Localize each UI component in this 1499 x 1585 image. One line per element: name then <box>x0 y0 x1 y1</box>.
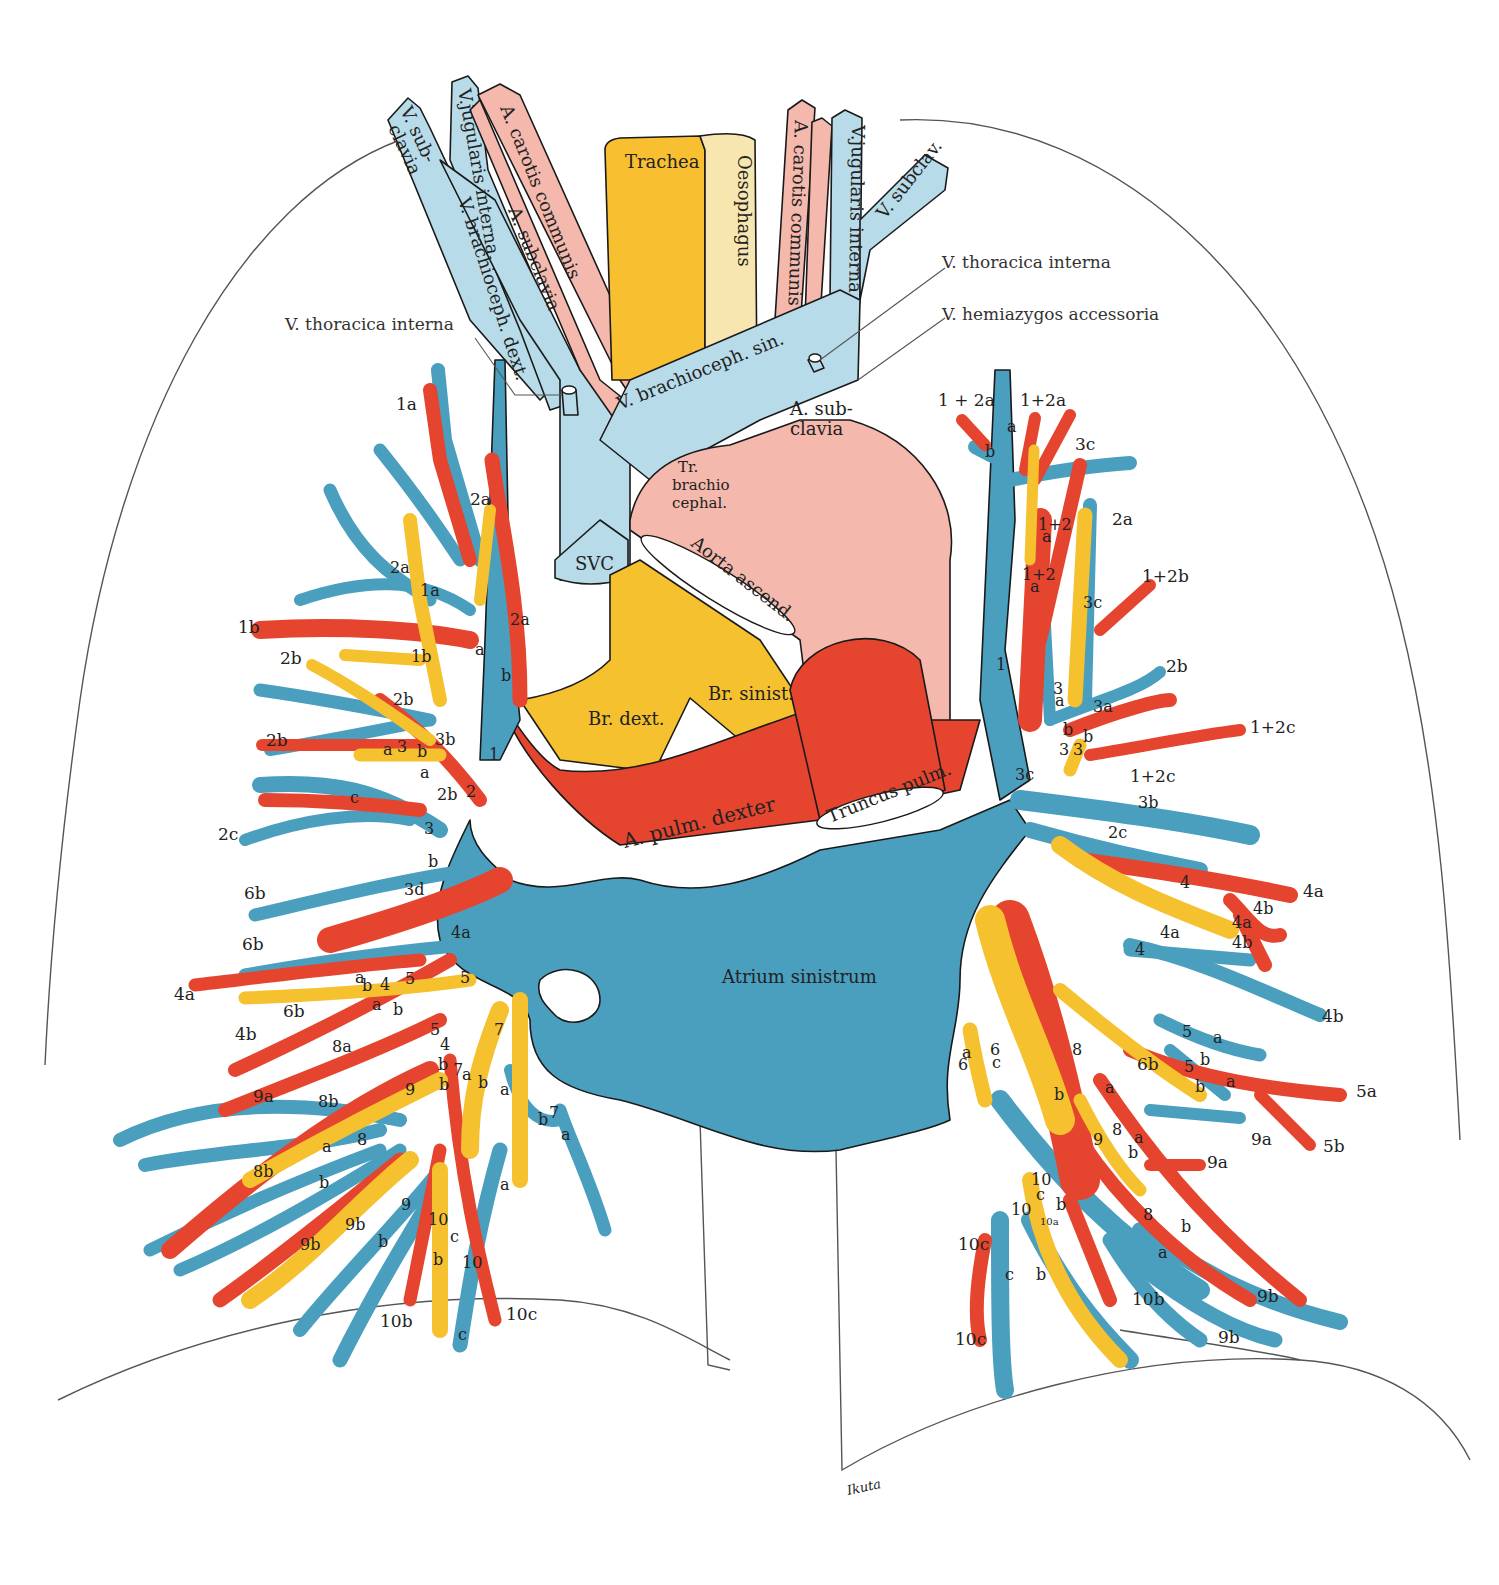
segment-label: a <box>500 1080 510 1099</box>
segment-label: b <box>985 442 995 461</box>
segment-label: 9b <box>1218 1327 1240 1347</box>
segment-label: 3d <box>404 880 424 899</box>
segment-label: 9a <box>1207 1152 1228 1172</box>
segment-label: 1a <box>396 394 417 414</box>
segment-label: 6b <box>283 1001 305 1021</box>
segment-label: b <box>1036 1265 1046 1284</box>
segment-label: 5 <box>1182 1022 1192 1041</box>
segment-label: 8 <box>1072 1040 1082 1059</box>
segment-label: 2a <box>1112 509 1133 529</box>
segment-label: 1b <box>411 647 431 666</box>
svg-text:Br. sinist.: Br. sinist. <box>708 683 794 704</box>
segment-label: b <box>1195 1077 1205 1096</box>
segment-label: 5b <box>1323 1136 1345 1156</box>
segment-label: 3b <box>1138 793 1158 812</box>
segment-label: 1 <box>489 745 499 764</box>
segment-label: a <box>561 1125 571 1144</box>
segment-label: 4 <box>440 1035 450 1054</box>
segment-label: 4b <box>235 1024 257 1044</box>
segment-label: 1 <box>996 655 1006 674</box>
segment-label: 8b <box>253 1162 273 1181</box>
segment-label: a <box>1042 527 1052 546</box>
segment-label: 1b <box>238 617 260 637</box>
segment-label: 4b <box>1322 1006 1344 1026</box>
segment-label: 9 <box>401 1195 411 1214</box>
segment-label: 4b <box>1253 899 1273 918</box>
segment-label: b <box>478 1073 488 1092</box>
segment-label: b <box>1054 1085 1064 1104</box>
segment-label: a <box>1226 1072 1236 1091</box>
segment-label: 6b <box>242 934 264 954</box>
segment-label: 8a <box>332 1037 352 1056</box>
segment-label: 10b <box>380 1311 413 1331</box>
segment-label: b <box>433 1250 443 1269</box>
segment-label: 3c <box>1083 593 1102 612</box>
segment-label: 4a <box>1303 881 1324 901</box>
segment-label: 2b <box>437 785 457 804</box>
segment-label: 8b <box>318 1092 338 1111</box>
svg-text:clavia: clavia <box>790 418 843 439</box>
segment-label: a <box>1030 577 1040 596</box>
svg-text:brachio: brachio <box>672 476 730 494</box>
segment-label: 1a <box>420 581 440 600</box>
segment-label: 4a <box>1160 923 1180 942</box>
segment-label: 9b <box>345 1215 365 1234</box>
segment-label: 9b <box>1257 1286 1279 1306</box>
segment-label: c <box>458 1325 467 1344</box>
segment-label: b <box>378 1232 388 1251</box>
svg-text:cephal.: cephal. <box>672 494 727 512</box>
segment-label: 9a <box>1251 1129 1272 1149</box>
svg-text:Atrium sinistrum: Atrium sinistrum <box>721 966 877 987</box>
svg-text:SVC: SVC <box>575 553 614 574</box>
segment-label: 4b <box>1232 933 1252 952</box>
segment-label: 1+2c <box>1130 766 1175 786</box>
segment-label: b <box>1200 1050 1210 1069</box>
segment-label: a <box>475 640 485 659</box>
segment-label: 9a <box>253 1086 274 1106</box>
segment-label: b <box>538 1110 548 1129</box>
segment-label: a <box>500 1175 510 1194</box>
segment-label: 4a <box>451 923 471 942</box>
segment-label: 6b <box>1137 1054 1159 1074</box>
segment-label: 9 <box>405 1080 415 1099</box>
svg-text:V. thoracica interna: V. thoracica interna <box>284 314 454 334</box>
segment-label: b <box>319 1173 329 1192</box>
segment-label: 5 <box>430 1020 440 1039</box>
segment-label: c <box>1036 1185 1045 1204</box>
segment-label: 3 <box>1059 740 1069 759</box>
segment-label: 1+2c <box>1250 717 1295 737</box>
segment-label: b <box>1056 1195 1066 1214</box>
segment-label: 6b <box>244 883 266 903</box>
segment-label: b <box>439 1075 449 1094</box>
segment-label: 1+2a <box>1020 390 1066 410</box>
segment-label: 2a <box>510 610 530 629</box>
segment-label: a <box>1158 1243 1168 1262</box>
svg-text:Trachea: Trachea <box>625 151 700 172</box>
segment-label: 10 <box>462 1253 482 1272</box>
segment-label: c <box>992 1053 1001 1072</box>
segment-label: c <box>450 1227 459 1246</box>
segment-label: b <box>1181 1217 1191 1236</box>
segment-label: a <box>322 1137 332 1156</box>
segment-label: 2c <box>218 824 238 844</box>
segment-label: 2a <box>470 489 491 509</box>
svg-text:V. hemiazygos accessoria: V. hemiazygos accessoria <box>941 304 1159 324</box>
segment-label: 5 <box>405 969 415 988</box>
segment-label: 10b <box>1132 1289 1165 1309</box>
segment-label: 1+2b <box>1142 566 1189 586</box>
svg-text:V.jugularis interna: V.jugularis interna <box>845 124 869 293</box>
segment-label: 4 <box>380 975 390 994</box>
segment-label: 10c <box>958 1234 989 1254</box>
trachea <box>605 136 705 380</box>
segment-label: 8 <box>1112 1120 1122 1139</box>
segment-label: a <box>1007 417 1017 436</box>
svg-text:Tr.: Tr. <box>678 458 698 476</box>
segment-label: 3c <box>1075 434 1095 454</box>
segment-label: 10c <box>506 1304 537 1324</box>
segment-label: b <box>393 1000 403 1019</box>
segment-label: b <box>428 852 438 871</box>
svg-text:Oesophagus: Oesophagus <box>734 155 755 267</box>
segment-label: 3 <box>397 737 407 756</box>
segment-label: 7 <box>494 1020 504 1039</box>
segment-label: 5a <box>1356 1081 1377 1101</box>
